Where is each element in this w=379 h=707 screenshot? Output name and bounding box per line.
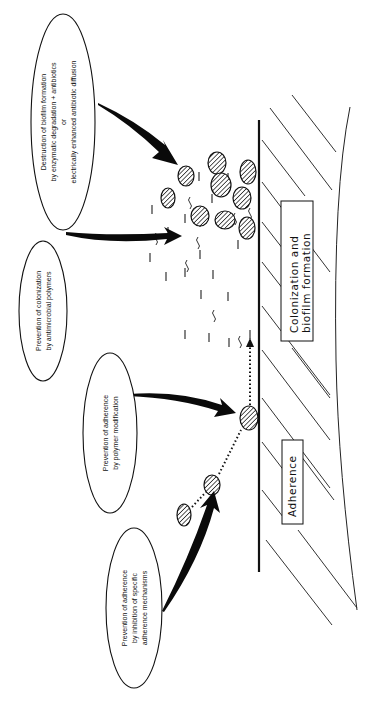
arrow-colonization-icon [66, 227, 182, 245]
polymer-substrate [259, 95, 357, 625]
free-bacterium [177, 504, 191, 526]
oval-destruction-line2: by enzymatic degradation + antibiotics [50, 62, 58, 181]
oval-destruction: Destruction of biofilm formation by enzy… [31, 14, 95, 230]
colonization-label-line1: Colonization and [288, 236, 300, 333]
oval-destruction-line4: electrically enhanced antibiotic diffusi… [70, 60, 78, 183]
intervention-arrows [66, 103, 236, 612]
oval-polymer-modification-line2: by polymer modification [112, 396, 120, 470]
arrow-polymer-modification-icon [128, 393, 236, 417]
bacterium [211, 173, 231, 197]
arrow-destruction-icon [98, 103, 178, 165]
oval-polymer-modification-line1: Prevention of adherence [102, 395, 109, 471]
bacterium [178, 166, 194, 186]
bacterium [161, 188, 175, 208]
oval-specific-mechanism-line2: by inhibition of specific [131, 572, 139, 643]
approaching-bacterium [204, 475, 220, 495]
oval-specific-mechanism: Prevention of adherence by inhibition of… [106, 528, 162, 688]
bacterium [215, 211, 235, 229]
adherence-label-box: Adherence [282, 440, 303, 524]
oval-destruction-line3: or [60, 118, 67, 125]
bacterium [208, 152, 226, 174]
biofilm-diagram: Colonization and biofilm formation Adher… [0, 0, 379, 707]
adherence-label: Adherence [286, 455, 298, 517]
oval-colonization-line1: Prevention of colonization [35, 271, 42, 351]
adhered-bacterium [240, 406, 258, 430]
oval-specific-mechanism-line1: Prevention of adherence [121, 570, 128, 646]
oval-polymer-modification: Prevention of adherence by polymer modif… [83, 353, 137, 513]
oval-destruction-line1: Destruction of biofilm formation [40, 74, 47, 171]
colonization-label-line2: biofilm formation [300, 233, 312, 333]
substrate-hatching [262, 95, 357, 625]
bacterium [233, 187, 251, 209]
bacterium [240, 160, 256, 184]
oval-specific-mechanism-line3: adherence mechanisms [141, 570, 148, 645]
bacterium [239, 217, 255, 239]
arrow-specific-mechanism-icon [162, 491, 220, 612]
oval-colonization-line2: by antimicrobial polymers [45, 271, 53, 350]
bacterium [191, 206, 209, 226]
oval-colonization: Prevention of colonization by antimicrob… [19, 241, 67, 381]
substrate-edge [336, 107, 357, 610]
dotted-arrowhead-icon [246, 338, 254, 347]
colonization-label-box: Colonization and biofilm formation [281, 201, 313, 341]
